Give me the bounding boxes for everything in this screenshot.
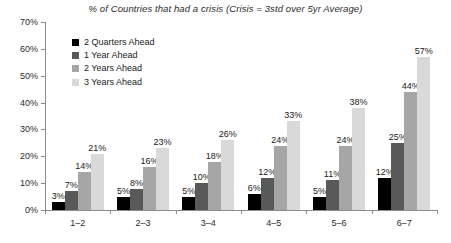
bar-slot: 25% [391, 22, 404, 210]
x-axis-tick [306, 210, 307, 214]
y-axis-label: 60% [20, 44, 38, 54]
bar-slot: 23% [156, 22, 169, 210]
bar-group: 5%11%24%38%5–6 [306, 22, 371, 210]
y-axis-label: 20% [20, 151, 38, 161]
x-axis-label: 2–3 [135, 218, 150, 228]
bar-value-label: 57% [415, 47, 433, 56]
bar-slot: 57% [417, 22, 430, 210]
bar-slot: 7% [65, 22, 78, 210]
bar-value-label: 21% [88, 144, 106, 153]
bar-slot: 6% [248, 22, 261, 210]
bar[interactable] [182, 197, 195, 210]
bar[interactable] [352, 108, 365, 210]
bar-group-bars: 5%11%24%38% [306, 22, 371, 210]
bar[interactable] [195, 183, 208, 210]
bar-slot: 21% [91, 22, 104, 210]
bar-value-label: 7% [65, 181, 78, 190]
bar[interactable] [78, 172, 91, 210]
bar[interactable] [339, 146, 352, 210]
bar-value-label: 8% [130, 179, 143, 188]
bar-group: 5%8%16%23%2–3 [110, 22, 175, 210]
y-axis-label: 70% [20, 17, 38, 27]
bar-value-label: 23% [153, 138, 171, 147]
bar-slot: 12% [378, 22, 391, 210]
bar[interactable] [261, 178, 274, 210]
bar-group-bars: 12%25%44%57% [372, 22, 437, 210]
bar-groups: 3%7%14%21%1–25%8%16%23%2–35%10%18%26%3–4… [45, 22, 437, 210]
bar[interactable] [91, 154, 104, 210]
y-axis-label: 10% [20, 178, 38, 188]
bar-group: 5%10%18%26%3–4 [176, 22, 241, 210]
bar[interactable] [313, 197, 326, 210]
bar-slot: 24% [339, 22, 352, 210]
chart-title: % of Countries that had a crisis (Crisis… [0, 3, 451, 14]
bar-group: 3%7%14%21%1–2 [45, 22, 110, 210]
x-axis-label: 3–4 [201, 218, 216, 228]
bar-slot: 33% [287, 22, 300, 210]
x-axis-tick [437, 210, 438, 214]
bar-slot: 5% [313, 22, 326, 210]
bar-group-bars: 3%7%14%21% [45, 22, 110, 210]
x-axis-label: 1–2 [70, 218, 85, 228]
bar-value-label: 6% [248, 184, 261, 193]
bar-group: 6%12%24%33%4–5 [241, 22, 306, 210]
y-axis-label: 50% [20, 71, 38, 81]
x-axis-label: 4–5 [266, 218, 281, 228]
bar-slot: 11% [326, 22, 339, 210]
bar[interactable] [404, 92, 417, 210]
bar[interactable] [65, 191, 78, 210]
bar[interactable] [117, 197, 130, 210]
bar-value-label: 38% [349, 98, 367, 107]
y-axis-label: 40% [20, 98, 38, 108]
bar[interactable] [391, 143, 404, 210]
bar[interactable] [52, 202, 65, 210]
bar-slot: 18% [208, 22, 221, 210]
bar-group: 12%25%44%57%6–7 [372, 22, 437, 210]
bar-slot: 14% [78, 22, 91, 210]
x-axis-label: 5–6 [331, 218, 346, 228]
bar-slot: 38% [352, 22, 365, 210]
bar[interactable] [417, 57, 430, 210]
bar-slot: 3% [52, 22, 65, 210]
bar-value-label: 5% [117, 187, 130, 196]
bar-chart: % of Countries that had a crisis (Crisis… [0, 0, 451, 243]
x-axis-label: 6–7 [397, 218, 412, 228]
bar-value-label: 33% [284, 111, 302, 120]
plot-area: 0%10%20%30%40%50%60%70% 3%7%14%21%1–25%8… [45, 22, 437, 210]
bar-value-label: 5% [182, 187, 195, 196]
bar-group-bars: 5%8%16%23% [110, 22, 175, 210]
y-axis-label: 0% [25, 205, 38, 215]
x-axis-tick [372, 210, 373, 214]
bar-slot: 5% [117, 22, 130, 210]
bar[interactable] [143, 167, 156, 210]
x-axis-tick [45, 210, 46, 214]
bar-group-bars: 6%12%24%33% [241, 22, 306, 210]
bar-slot: 12% [261, 22, 274, 210]
bar-slot: 10% [195, 22, 208, 210]
bar-slot: 8% [130, 22, 143, 210]
x-axis-tick [110, 210, 111, 214]
bar[interactable] [287, 121, 300, 210]
bar[interactable] [248, 194, 261, 210]
bar-slot: 26% [221, 22, 234, 210]
bar-value-label: 26% [219, 130, 237, 139]
bar-value-label: 3% [52, 192, 65, 201]
bar-slot: 16% [143, 22, 156, 210]
bar[interactable] [378, 178, 391, 210]
bar[interactable] [130, 189, 143, 210]
x-axis-tick [241, 210, 242, 214]
bar[interactable] [221, 140, 234, 210]
bar[interactable] [326, 180, 339, 210]
bar[interactable] [208, 162, 221, 210]
bar[interactable] [156, 148, 169, 210]
bar-value-label: 5% [313, 187, 326, 196]
bar[interactable] [274, 146, 287, 210]
bar-group-bars: 5%10%18%26% [176, 22, 241, 210]
x-axis-tick [176, 210, 177, 214]
y-axis-label: 30% [20, 124, 38, 134]
